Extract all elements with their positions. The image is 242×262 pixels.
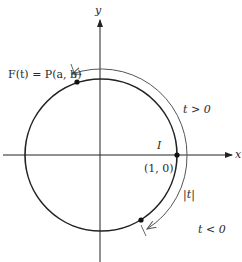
x-axis-label: x (235, 148, 242, 161)
t-negative-label: t < 0 (198, 223, 226, 236)
unit-circle-diagram: y x F(t) = P(a, b) I (1, 0) t > 0 t < 0 … (0, 0, 242, 262)
point-i-label: I (156, 139, 162, 152)
arc-end-tick-bottom (141, 225, 146, 236)
point-negative-t (138, 217, 143, 222)
arc-t-positive (72, 69, 187, 155)
t-positive-label: t > 0 (183, 103, 211, 116)
point-f-label: F(t) = P(a, b) (8, 68, 81, 81)
point-1-0 (174, 152, 179, 157)
point-coords-label: (1, 0) (144, 162, 174, 175)
y-axis-label: y (94, 4, 102, 17)
abs-t-label: |t| (183, 188, 195, 202)
